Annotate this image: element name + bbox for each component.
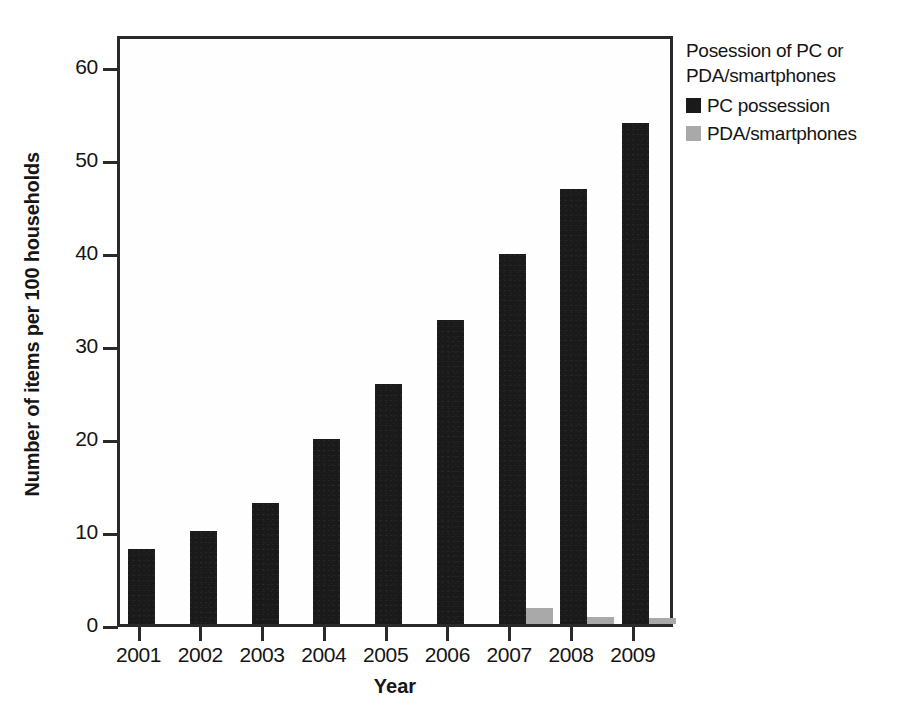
legend: Posession of PC or PDA/smartphones PC po… <box>686 38 914 146</box>
legend-title-line-2: PDA/smartphones <box>686 63 914 88</box>
bar-pc-possession <box>252 503 279 624</box>
legend-entry: PC possession <box>686 93 914 118</box>
y-axis-tick <box>103 254 118 257</box>
y-axis-tick-label: 50 <box>38 148 98 172</box>
plot-area <box>117 36 673 627</box>
x-axis-tick <box>385 627 388 641</box>
x-axis-tick <box>508 627 511 641</box>
bar-pc-possession <box>190 531 217 624</box>
bar-chart-figure: Number of items per 100 households 01020… <box>0 0 916 727</box>
y-axis-tick <box>103 347 118 350</box>
y-axis-tick <box>103 626 118 629</box>
x-axis-title: Year <box>117 675 673 698</box>
y-axis-tick-label: 40 <box>38 241 98 265</box>
bar-pc-possession <box>313 439 340 624</box>
x-axis-tick <box>323 627 326 641</box>
bar-pc-possession <box>128 549 155 624</box>
bar-pc-possession <box>437 320 464 624</box>
x-axis-tick <box>446 627 449 641</box>
x-axis-tick <box>199 627 202 641</box>
legend-swatch-icon <box>686 126 701 141</box>
y-axis-tick <box>103 161 118 164</box>
legend-title-line-1: Posession of PC or <box>686 38 914 63</box>
y-axis-tick-label: 30 <box>38 334 98 358</box>
legend-entry: PDA/smartphones <box>686 121 914 146</box>
y-axis-tick <box>103 68 118 71</box>
bar-pc-possession <box>499 254 526 624</box>
y-axis-tick-label: 60 <box>38 55 98 79</box>
x-axis-tick <box>138 627 141 641</box>
y-axis-tick-label: 20 <box>38 427 98 451</box>
legend-entries: PC possessionPDA/smartphones <box>686 93 914 146</box>
x-axis-tick <box>261 627 264 641</box>
bar-pc-possession <box>560 189 587 624</box>
legend-entry-label: PDA/smartphones <box>707 121 857 146</box>
x-axis-tick <box>570 627 573 641</box>
y-axis-tick <box>103 440 118 443</box>
bar-pc-possession <box>622 123 649 624</box>
x-axis-tick <box>632 627 635 641</box>
bar-pc-possession <box>375 384 402 624</box>
legend-title: Posession of PC or PDA/smartphones <box>686 38 914 88</box>
x-axis-tick-label: 2009 <box>588 643 678 667</box>
legend-swatch-icon <box>686 98 701 113</box>
y-axis-tick-label: 0 <box>38 613 98 637</box>
y-axis-tick <box>103 533 118 536</box>
legend-entry-label: PC possession <box>707 93 830 118</box>
bar-pda-smartphones <box>587 617 614 624</box>
bar-pda-smartphones <box>526 608 553 624</box>
bar-pda-smartphones <box>649 618 676 625</box>
y-axis-tick-label: 10 <box>38 520 98 544</box>
